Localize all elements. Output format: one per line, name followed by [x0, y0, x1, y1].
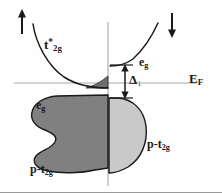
t2g-star-curve	[33, 24, 108, 88]
spin-up-arrow-head	[18, 9, 26, 18]
band-label-eg-left: eg	[36, 99, 45, 113]
dos-figure: t*2g eg eg Δ↓ EF p-t2g p-t2g	[0, 0, 222, 193]
band-label-p-t2g-left: p-t2g	[30, 163, 53, 177]
band-label-p-t2g-right: p-t2g	[147, 138, 170, 152]
spin-down-arrow-head	[168, 30, 176, 39]
band-label-eg-right: eg	[139, 56, 148, 70]
band-label-t2g-star: t*2g	[44, 38, 62, 53]
fermi-level-label: EF	[189, 72, 203, 87]
exchange-gap-delta-label: Δ↓	[129, 73, 142, 88]
p-t2g-right-lobe	[109, 98, 146, 173]
eg-curve	[110, 23, 158, 66]
